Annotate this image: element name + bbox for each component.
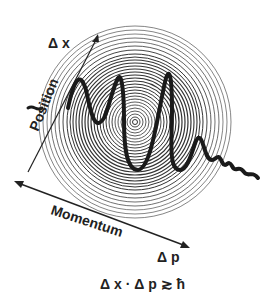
position-label: Position xyxy=(26,76,62,133)
concentric-rings xyxy=(39,26,231,218)
delta-x-label: Δ x xyxy=(48,35,70,51)
delta-p-label: Δ p xyxy=(157,249,180,265)
momentum-arrow xyxy=(14,181,190,248)
uncertainty-diagram: Δ x Position Momentum Δ p Δ x · Δ p ≳ ħ xyxy=(0,0,276,305)
uncertainty-equation: Δ x · Δ p ≳ ħ xyxy=(100,276,185,292)
